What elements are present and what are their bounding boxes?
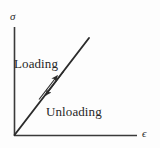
- unloading-arrow-icon: [46, 72, 64, 96]
- loading-arrow-icon: [39, 76, 58, 100]
- loading-annotation-label: Loading: [14, 57, 58, 70]
- x-axis-label-epsilon: ϵ: [142, 128, 146, 139]
- y-axis-label-sigma: σ: [10, 11, 15, 22]
- stress-strain-figure: σ ϵ Loading Unloading: [0, 0, 160, 148]
- unloading-annotation-label: Unloading: [46, 105, 102, 118]
- figure-canvas: [0, 0, 160, 148]
